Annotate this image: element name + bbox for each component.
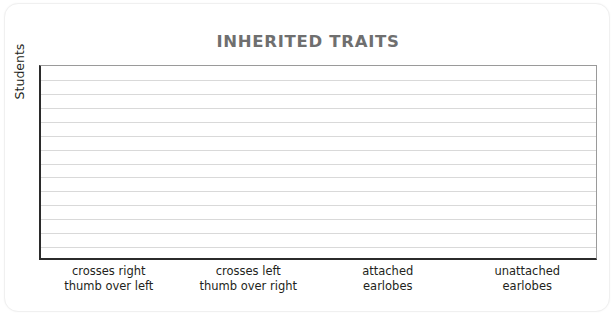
x-axis-label: crosses leftthumb over right — [179, 264, 319, 293]
x-axis-label-line: thumb over right — [179, 279, 319, 294]
x-axis-label: unattachedearlobes — [458, 264, 598, 293]
x-axis-label-line: thumb over left — [39, 279, 179, 294]
x-axis-label: crosses rightthumb over left — [39, 264, 179, 293]
x-axis-label-line: crosses left — [179, 264, 319, 279]
chart-title: INHERITED TRAITS — [5, 32, 611, 51]
y-axis-title: Students — [12, 12, 27, 132]
bars-layer — [41, 66, 596, 258]
x-axis-label-line: unattached — [458, 264, 598, 279]
x-axis-label: attachedearlobes — [318, 264, 458, 293]
x-axis-label-line: earlobes — [318, 279, 458, 294]
x-axis-labels: crosses rightthumb over leftcrosses left… — [39, 264, 597, 293]
x-axis-label-line: earlobes — [458, 279, 598, 294]
plot-area — [39, 65, 597, 260]
chart-card: INHERITED TRAITS Students crosses rightt… — [4, 3, 610, 312]
x-axis-label-line: crosses right — [39, 264, 179, 279]
x-axis-label-line: attached — [318, 264, 458, 279]
